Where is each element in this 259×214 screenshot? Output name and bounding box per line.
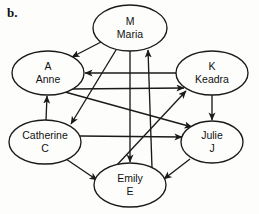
node-label-line2: E xyxy=(126,185,133,197)
edge-arrow xyxy=(70,88,184,89)
node-label-line2: Anne xyxy=(36,73,61,85)
node-label-line1: K xyxy=(208,60,215,72)
edge-arrow xyxy=(72,42,101,57)
node-label-line2: C xyxy=(41,142,49,154)
graph-node-e[interactable]: EmilyE xyxy=(94,163,166,207)
node-label-line1: Julie xyxy=(201,129,223,141)
node-label-line1: A xyxy=(44,60,51,72)
node-label-line2: Maria xyxy=(117,28,143,40)
graph-node-j[interactable]: JulieJ xyxy=(181,121,243,163)
edge-arrow xyxy=(46,96,47,120)
edge-arrow xyxy=(164,159,190,179)
graph-node-k[interactable]: KKeadra xyxy=(176,51,248,95)
graph-node-a[interactable]: AAnne xyxy=(12,51,84,95)
directed-graph: MMariaAAnneKKeadraCatherineCJulieJEmilyE xyxy=(0,0,259,214)
edge-arrow xyxy=(66,159,97,180)
graph-node-m[interactable]: MMaria xyxy=(93,5,167,51)
node-label-line2: Keadra xyxy=(195,73,229,85)
figure-panel: b. MMariaAAnneKKeadraCatherineCJulieJEmi… xyxy=(0,0,259,214)
graph-node-c[interactable]: CatherineC xyxy=(9,120,81,164)
node-label-line2: J xyxy=(209,142,214,154)
edge-arrow xyxy=(80,136,182,137)
node-label-line1: Catherine xyxy=(22,129,68,141)
edge-arrow xyxy=(148,50,152,168)
edge-arrow xyxy=(65,92,192,127)
node-label-line1: M xyxy=(126,15,135,27)
node-label-line1: Emily xyxy=(117,172,143,184)
